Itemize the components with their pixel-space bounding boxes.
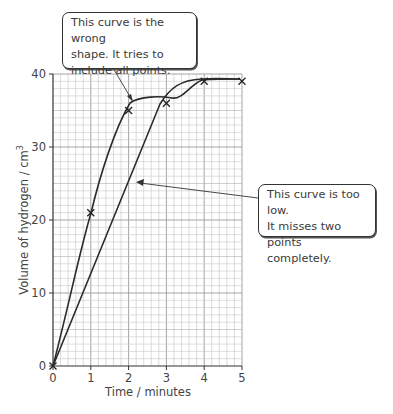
x-tick-label: 3 — [163, 371, 170, 385]
callout-too-low-line1: This curve is too low. — [267, 187, 369, 219]
y-tick-label: 0 — [39, 359, 46, 373]
callout-wrong-shape-line2: shape. It tries to — [71, 47, 190, 63]
callout-wrong-shape-line1: This curve is the wrong — [71, 15, 190, 47]
callout-too-low: This curve is too low. It misses two poi… — [258, 184, 376, 237]
x-tick-label: 4 — [201, 371, 208, 385]
y-axis-title: Volume of hydrogen / cm3 — [16, 145, 31, 295]
y-tick-label: 30 — [31, 140, 46, 154]
x-tick-label: 2 — [125, 371, 132, 385]
x-axis-title: Time / minutes — [104, 385, 191, 399]
arrow-right-head-icon — [136, 179, 144, 186]
callout-too-low-line3: completely. — [267, 251, 369, 267]
x-tick-label: 0 — [49, 371, 56, 385]
y-ticks: 010203040 — [31, 67, 53, 373]
x-tick-label: 5 — [238, 371, 245, 385]
graph-paper-grid — [53, 74, 242, 366]
x-ticks: 012345 — [49, 366, 245, 385]
y-tick-label: 20 — [31, 213, 46, 227]
y-tick-label: 40 — [31, 67, 46, 81]
callout-wrong-shape-line3: include all points. — [71, 63, 190, 79]
data-point-markers — [50, 78, 246, 370]
callout-wrong-shape: This curve is the wrong shape. It tries … — [62, 12, 197, 69]
x-tick-label: 1 — [87, 371, 94, 385]
arrow-top-head-icon — [127, 94, 133, 102]
annotation-arrows — [113, 68, 258, 198]
callout-too-low-line2: It misses two points — [267, 219, 369, 251]
y-tick-label: 10 — [31, 286, 46, 300]
